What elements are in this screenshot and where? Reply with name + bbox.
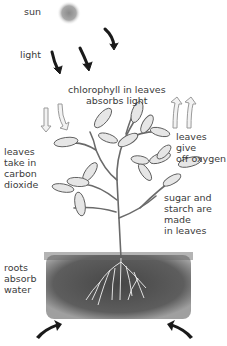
roots-label: roots absorb water (4, 262, 37, 295)
soil (44, 252, 193, 319)
chlorophyll-label: chlorophyll in leaves absorbs light (68, 84, 166, 106)
oxygen-arrows (171, 97, 196, 128)
light-label: light (20, 49, 41, 60)
light-arrows (52, 29, 118, 74)
carbon-dioxide-arrows (41, 104, 69, 132)
sun-icon (57, 1, 81, 25)
sugar-label: sugar and starch are made in leaves (164, 192, 212, 236)
carbon-dioxide-label: leaves take in carbon dioxide (4, 146, 38, 190)
oxygen-label: leaves give off oxygen (176, 131, 227, 164)
sun-label: sun (24, 6, 41, 17)
water-arrows (36, 320, 193, 339)
